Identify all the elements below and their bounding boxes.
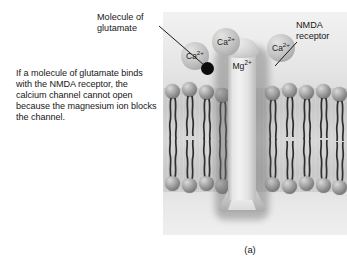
lipid-tails-icon [284, 97, 296, 137]
figure-description-text: If a molecule of glutamate binds with th… [16, 68, 160, 123]
lipid-head-icon [182, 178, 197, 193]
glutamate-callout-label: Molecule of glutamate [97, 12, 159, 33]
lipid-head-icon [299, 176, 314, 191]
lipid-tails-icon [318, 98, 330, 138]
lipid-tails-icon [301, 99, 313, 139]
lipid-head-icon [316, 84, 331, 99]
lipid-head-icon [165, 176, 180, 191]
lipid-tails-icon [284, 141, 296, 181]
lipid-head-icon [199, 176, 214, 191]
lipid-head-icon [332, 180, 347, 195]
nmda-label-line-1: NMDA [296, 20, 344, 31]
nmda-receptor-figure: If a molecule of glutamate binds with th… [0, 0, 347, 269]
lipid-tails-icon [184, 140, 196, 180]
magnesium-ion-label: Mg2+ [220, 61, 264, 71]
lipid-head-icon [199, 85, 214, 100]
lipid-tails-icon [184, 96, 196, 136]
lipid-tails-icon [334, 101, 346, 141]
calcium-ion-label: Ca2+ [272, 43, 290, 53]
nmda-label-line-2: receptor [296, 31, 344, 42]
lipid-tails-icon [301, 138, 313, 178]
calcium-ion-label: Ca2+ [217, 37, 235, 47]
lipid-tails-icon [201, 138, 213, 178]
lipid-head-icon [282, 179, 297, 194]
lipid-head-icon [316, 178, 331, 193]
lipid-tails-icon [167, 98, 179, 138]
glutamate-label-line-2: glutamate [97, 23, 159, 34]
calcium-ion: Ca2+ [267, 34, 295, 62]
lipid-tails-icon [334, 142, 346, 182]
calcium-ion-label: Ca2+ [186, 51, 204, 61]
lipid-tails-icon [318, 140, 330, 180]
lipid-head-icon [332, 87, 347, 102]
lipid-head-icon [299, 85, 314, 100]
glutamate-label-line-1: Molecule of [97, 12, 159, 23]
glutamate-molecule [201, 62, 214, 75]
lipid-head-icon [282, 83, 297, 98]
illustration-panel: Ca2+ Ca2+ Ca2+ Mg2+ [163, 12, 347, 235]
lipid-head-icon [165, 84, 180, 99]
subfigure-caption: (a) [228, 245, 272, 255]
lipid-tails-icon [201, 99, 213, 139]
lipid-tails-icon [167, 138, 179, 178]
calcium-ion: Ca2+ [212, 28, 240, 56]
lipid-head-icon [182, 82, 197, 97]
nmda-receptor-callout-label: NMDA receptor [296, 20, 344, 41]
